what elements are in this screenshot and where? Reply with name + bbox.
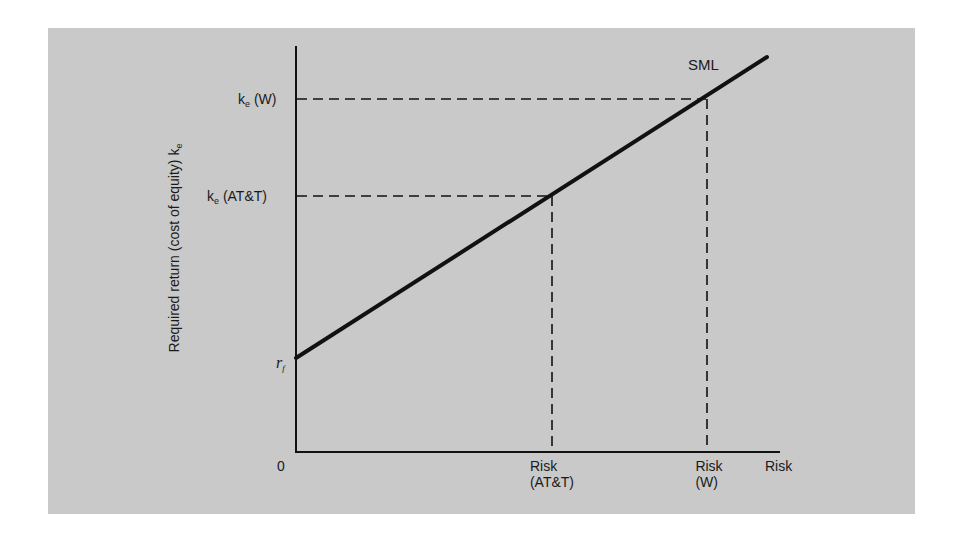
risk-att-line1: Risk <box>530 458 574 474</box>
y-axis-label-main: Required return (cost of equity) k <box>166 149 182 353</box>
ke-w-main: k <box>238 91 245 107</box>
risk-att-line2: (AT&T) <box>530 474 574 490</box>
ke-att-suffix: (AT&T) <box>219 188 267 204</box>
sml-label: SML <box>688 57 719 73</box>
y-tick-ke-att: ke (AT&T) <box>207 188 267 209</box>
sml-chart <box>0 0 960 536</box>
rf-sub: f <box>282 363 285 373</box>
x-tick-risk-w: Risk (W) <box>695 458 722 490</box>
x-tick-risk-att: Risk (AT&T) <box>530 458 574 490</box>
risk-w-line2: (W) <box>695 474 722 490</box>
y-axis-label: Required return (cost of equity) ke <box>166 144 184 353</box>
origin-label: 0 <box>277 458 285 474</box>
x-axis-label: Risk <box>765 458 792 474</box>
sml-line <box>296 57 767 358</box>
y-tick-ke-w: ke (W) <box>238 91 276 112</box>
ke-w-suffix: (W) <box>250 91 276 107</box>
y-tick-rf: rf <box>276 355 285 376</box>
ke-att-main: k <box>207 188 214 204</box>
risk-w-line1: Risk <box>695 458 722 474</box>
y-axis-label-sub: e <box>174 144 184 149</box>
